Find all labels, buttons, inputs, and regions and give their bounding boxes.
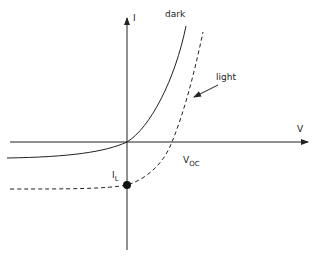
light-label: light <box>216 72 236 82</box>
dark-label: dark <box>165 9 185 19</box>
x-axis-label: V <box>297 124 303 134</box>
dark-curve <box>7 26 186 158</box>
il-label: IL <box>112 170 119 183</box>
light-pointer-arrow <box>194 85 218 97</box>
voc-label: VOC <box>183 155 200 168</box>
iv-diagram <box>0 0 313 257</box>
y-axis-label: I <box>133 13 136 23</box>
il-sub: L <box>115 175 119 183</box>
light-curve <box>10 32 203 189</box>
voc-sub: OC <box>189 160 199 168</box>
il-point <box>123 181 131 189</box>
